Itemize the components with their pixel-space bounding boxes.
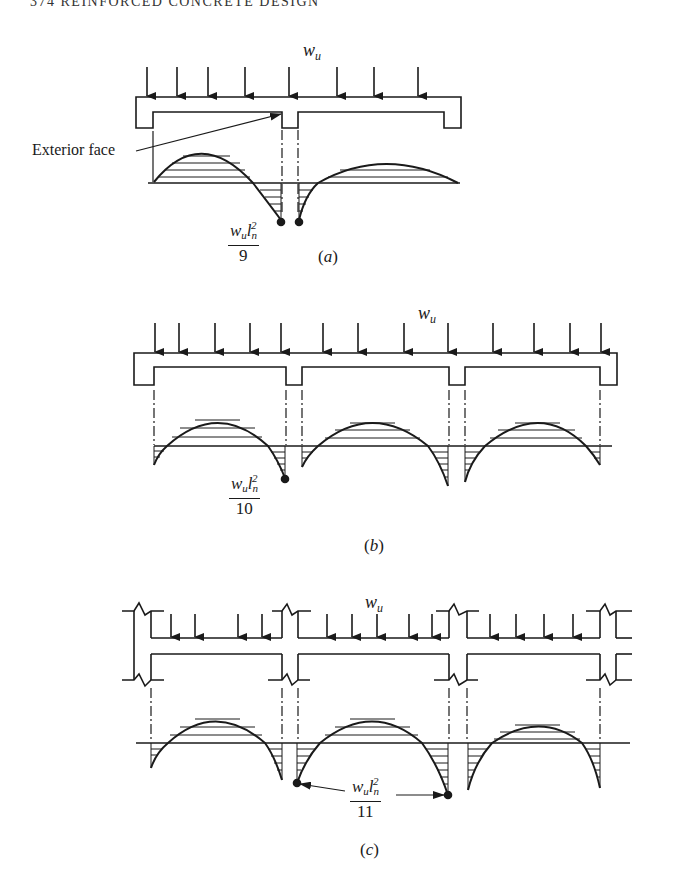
exterior-face-label: Exterior face <box>32 141 115 159</box>
moment-curve-b2 <box>302 423 448 486</box>
moment-point-a-right <box>296 219 303 226</box>
moment-curve-b1 <box>154 423 285 478</box>
hatch-c3 <box>468 725 600 790</box>
hatch-a2 <box>299 170 448 220</box>
load-label-b: wu <box>418 303 436 327</box>
load-arrows-b <box>155 323 601 352</box>
moment-point-c-left <box>294 780 301 787</box>
hatch-b2 <box>302 423 448 486</box>
load-label-a: wu <box>303 40 321 64</box>
hatch-b3 <box>465 423 600 482</box>
caption-c: (c) <box>360 840 379 860</box>
moment-point-a-left <box>278 219 285 226</box>
hatch-c1 <box>151 719 282 780</box>
moment-fraction-a: wuln2 9 <box>228 216 259 265</box>
moment-curve-c3 <box>468 727 600 791</box>
hatch-b1 <box>154 420 285 478</box>
figure-b <box>134 323 617 486</box>
leader-c-left <box>300 784 345 791</box>
diagram-canvas <box>0 0 688 882</box>
moment-fraction-b: wuln2 10 <box>229 469 260 518</box>
moment-fraction-c: wuln2 11 <box>350 772 381 821</box>
caption-b: (b) <box>364 536 384 556</box>
hatch-a1 <box>158 156 281 220</box>
figure-c <box>122 603 632 799</box>
load-arrows-c <box>171 614 573 637</box>
moment-curve-c1 <box>151 722 282 781</box>
beam-outline-b <box>134 353 617 385</box>
moment-curve-b3 <box>465 423 600 482</box>
caption-a: (a) <box>318 247 338 267</box>
moment-curve-a2 <box>299 164 458 220</box>
moment-point-b <box>282 476 289 483</box>
load-arrows-a <box>147 67 418 96</box>
centerlines-a <box>282 130 298 215</box>
figure-a <box>136 67 461 226</box>
moment-point-c-right <box>445 792 452 799</box>
load-label-c: wu <box>365 592 383 616</box>
centerlines-c <box>151 688 600 742</box>
beam-outline-a <box>136 97 461 128</box>
moment-curve-a1 <box>154 154 281 220</box>
exterior-face-leader <box>136 114 281 151</box>
